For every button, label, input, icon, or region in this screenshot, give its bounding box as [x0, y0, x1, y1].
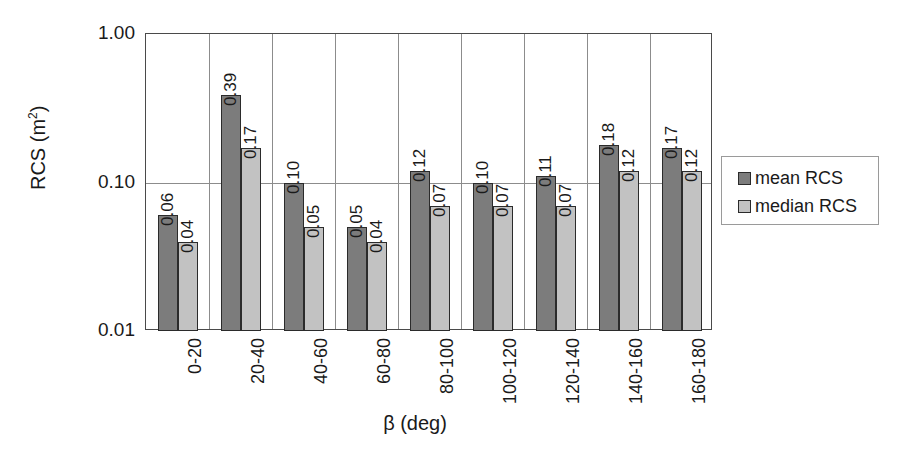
- bar-value-label: 0.39: [222, 73, 239, 106]
- bar-value-label: 0.07: [557, 183, 574, 216]
- plot-area: 0.060.040.390.170.100.050.050.040.120.07…: [145, 33, 712, 330]
- y-axis-tick-label: 0.01: [61, 320, 135, 339]
- bar-value-label: 0.05: [348, 205, 365, 238]
- x-axis-tick-label: 160-180: [690, 338, 708, 404]
- legend-swatch-mean-icon: [738, 172, 751, 185]
- gridline-vertical: [461, 34, 462, 329]
- bar-value-label: 0.10: [285, 160, 302, 193]
- legend-item-median: median RCS: [738, 194, 878, 218]
- bar-value-label: 0.12: [620, 149, 637, 182]
- x-axis-title: β (deg): [305, 412, 525, 435]
- bar-median: [619, 171, 639, 331]
- legend-label-median: median RCS: [755, 197, 857, 215]
- gridline-vertical: [587, 34, 588, 329]
- gridline-vertical: [209, 34, 210, 329]
- bar-median: [367, 242, 387, 331]
- bar-median: [178, 242, 198, 331]
- bar-value-label: 0.17: [663, 126, 680, 159]
- x-axis-tick-label: 80-100: [438, 338, 456, 394]
- bar-value-label: 0.04: [179, 220, 196, 253]
- bar-median: [556, 206, 576, 331]
- bar-mean: [473, 183, 493, 332]
- gridline-vertical: [398, 34, 399, 329]
- legend-swatch-median-icon: [738, 200, 751, 213]
- gridline-vertical: [524, 34, 525, 329]
- bar-mean: [158, 215, 178, 331]
- x-axis-tick-label: 0-20: [186, 338, 204, 374]
- gridline-vertical: [650, 34, 651, 329]
- bar-mean: [662, 148, 682, 331]
- bar-value-label: 0.18: [600, 122, 617, 155]
- bar-value-label: 0.11: [537, 156, 554, 188]
- chart-legend: mean RCS median RCS: [721, 156, 879, 225]
- bar-mean: [347, 227, 367, 331]
- bar-mean: [284, 183, 304, 332]
- x-axis-tick-label: 120-140: [564, 338, 582, 404]
- y-axis-tick-label: 0.10: [61, 172, 135, 191]
- bar-value-label: 0.07: [431, 183, 448, 216]
- bar-mean: [221, 95, 241, 331]
- legend-item-mean: mean RCS: [738, 166, 878, 190]
- bar-median: [682, 171, 702, 331]
- bar-mean: [536, 176, 556, 331]
- y-axis-title-exponent: 2: [26, 112, 40, 119]
- legend-label-mean: mean RCS: [755, 169, 843, 187]
- x-axis-tick-label: 100-120: [501, 338, 519, 404]
- x-axis-tick-label: 40-60: [312, 338, 330, 384]
- bar-mean: [599, 145, 619, 331]
- gridline-vertical: [335, 34, 336, 329]
- bar-median: [430, 206, 450, 331]
- bar-value-label: 0.10: [474, 160, 491, 193]
- y-axis-tick-label: 1.00: [61, 23, 135, 42]
- y-axis-title: RCS (m2): [26, 58, 50, 238]
- bar-median: [493, 206, 513, 331]
- bar-value-label: 0.05: [305, 205, 322, 238]
- bar-value-label: 0.12: [683, 149, 700, 182]
- bar-mean: [410, 171, 430, 331]
- x-axis-tick-label: 20-40: [249, 338, 267, 384]
- bar-value-label: 0.12: [411, 149, 428, 182]
- x-axis-tick-label: 140-160: [627, 338, 645, 404]
- y-axis-title-close: ): [27, 106, 49, 113]
- bar-value-label: 0.07: [494, 183, 511, 216]
- gridline-vertical: [272, 34, 273, 329]
- bar-value-label: 0.17: [242, 126, 259, 159]
- bar-value-label: 0.04: [368, 220, 385, 253]
- bar-median: [241, 148, 261, 331]
- x-axis-tick-label: 60-80: [375, 338, 393, 384]
- bar-median: [304, 227, 324, 331]
- bar-value-label: 0.06: [159, 193, 176, 226]
- rcs-bar-chart: RCS (m2) 1.000.100.01 0.060.040.390.170.…: [0, 0, 918, 453]
- y-axis-title-base: RCS (m: [27, 119, 49, 190]
